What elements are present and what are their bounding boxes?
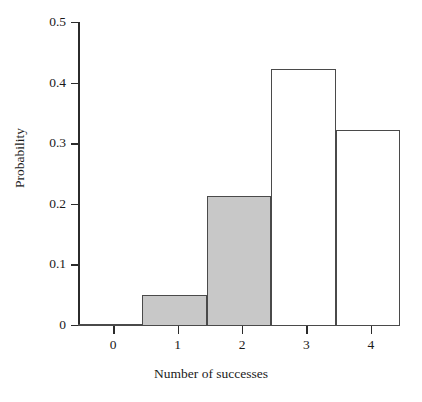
y-tick-0.4	[71, 83, 78, 84]
probability-histogram-figure: 0.5 0.4 0.3 0.2 0.1 0 0 1 2 3 4 Probabil…	[0, 0, 422, 402]
y-tick-0	[71, 325, 78, 326]
x-tick-label-1: 1	[163, 338, 193, 352]
y-tick-label-0: 0	[32, 318, 66, 332]
y-tick-label-0.1: 0.1	[32, 257, 66, 271]
x-axis-title: Number of successes	[0, 366, 422, 382]
y-axis-title: Probability	[12, 103, 28, 213]
bar-2	[207, 196, 271, 326]
x-tick-4	[371, 326, 372, 334]
x-tick-label-3: 3	[291, 338, 321, 352]
x-tick-label-2: 2	[227, 338, 257, 352]
x-tick-3	[306, 326, 307, 334]
bar-4	[336, 130, 400, 326]
x-tick-label-4: 4	[356, 338, 386, 352]
y-tick-0.2	[71, 204, 78, 205]
x-tick-1	[178, 326, 179, 334]
bar-0	[78, 324, 142, 326]
x-tick-2	[242, 326, 243, 334]
bar-3	[271, 69, 335, 326]
y-tick-0.1	[71, 264, 78, 265]
y-tick-0.5	[71, 22, 78, 23]
x-tick-label-0: 0	[98, 338, 128, 352]
y-tick-label-0.3: 0.3	[32, 136, 66, 150]
y-axis-line	[78, 22, 80, 326]
y-tick-0.3	[71, 143, 78, 144]
y-tick-label-0.5: 0.5	[32, 15, 66, 29]
x-tick-0	[113, 326, 114, 334]
y-tick-label-0.4: 0.4	[32, 76, 66, 90]
y-tick-label-0.2: 0.2	[32, 197, 66, 211]
bar-1	[142, 295, 206, 325]
